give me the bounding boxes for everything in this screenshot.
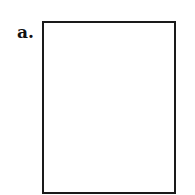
empty-panel-frame (42, 21, 176, 194)
panel-label: a. (17, 22, 34, 42)
